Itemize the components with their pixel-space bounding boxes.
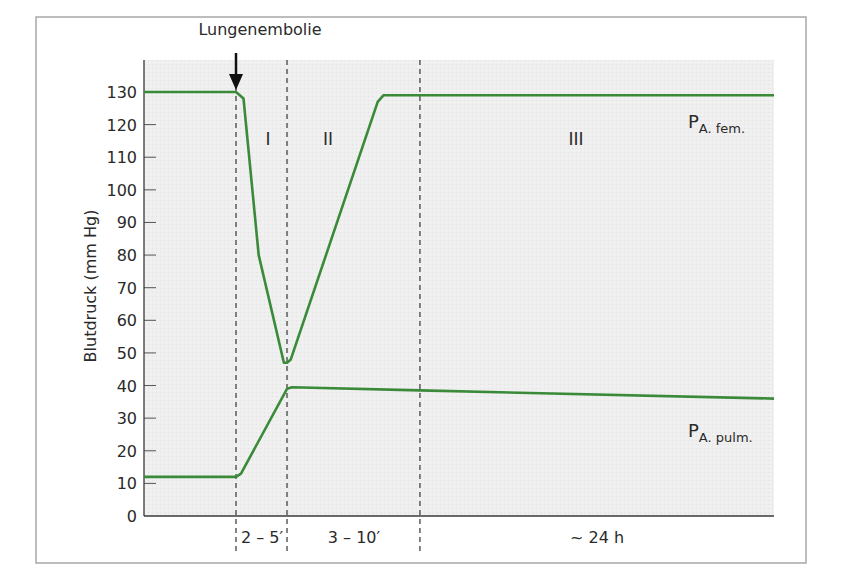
chart-svg: 0102030405060708090100110120130 Blutdruc… <box>0 0 843 581</box>
y-tick-label: 130 <box>106 83 137 102</box>
y-tick-label: 120 <box>106 116 137 135</box>
duration-label: ~ 24 h <box>570 528 624 547</box>
y-axis-label: Blutdruck (mm Hg) <box>81 210 100 363</box>
y-tick-label: 80 <box>117 246 137 265</box>
y-tick-label: 100 <box>106 181 137 200</box>
y-tick-label: 20 <box>117 442 137 461</box>
y-tick-label: 50 <box>117 344 137 363</box>
duration-label: 3 – 10′ <box>328 528 381 547</box>
y-tick-label: 70 <box>117 279 137 298</box>
phase-label: I <box>265 129 270 149</box>
y-tick-label: 10 <box>117 474 137 493</box>
duration-label: 2 – 5′ <box>241 528 284 547</box>
phase-label: III <box>568 129 583 149</box>
y-tick-label: 30 <box>117 409 137 428</box>
y-tick-label: 90 <box>117 213 137 232</box>
y-tick-label: 40 <box>117 377 137 396</box>
plot-area <box>144 60 774 516</box>
y-tick-label: 0 <box>127 507 137 526</box>
event-annotation-label: Lungenembolie <box>198 20 321 39</box>
y-tick-label: 60 <box>117 311 137 330</box>
phase-label: II <box>323 129 333 149</box>
figure: 0102030405060708090100110120130 Blutdruc… <box>0 0 843 581</box>
y-tick-label: 110 <box>106 148 137 167</box>
